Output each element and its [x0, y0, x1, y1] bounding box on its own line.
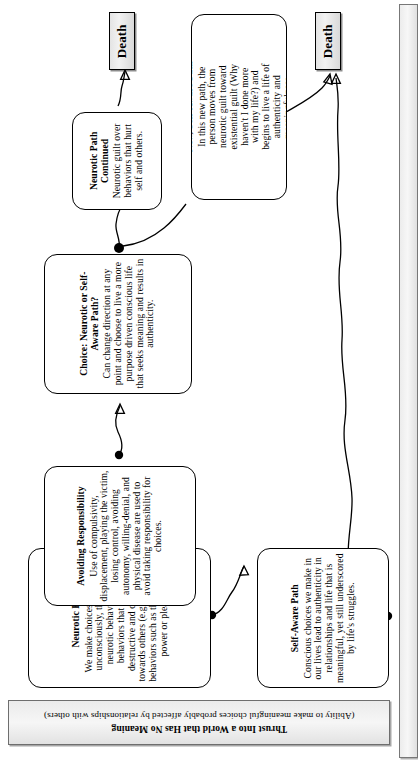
- wire-choice-to-new-selfaware: [123, 204, 186, 246]
- banner-inner: Thrust Into a World that Has No Meaning …: [44, 711, 355, 734]
- node-neurotic-path-continued-title: Neurotic Path Continued: [89, 117, 110, 205]
- banner-title: Thrust Into a World that Has No Meaning: [44, 723, 355, 734]
- arrowhead-neurotic-cont-death: [121, 70, 130, 79]
- node-choice-body: Can change direction at any point and ch…: [103, 259, 157, 389]
- wire-neurotic-cont-to-death: [118, 72, 125, 106]
- terminal-death-neurotic[interactable]: Death: [109, 12, 135, 70]
- node-avoiding-responsibility-body: Use of compulsivity, displacement, playi…: [89, 470, 164, 602]
- node-choice-title: Choice: Neurotic or Self-Aware Path?: [79, 259, 100, 389]
- node-new-self-aware-path-body: In this new path, the person moves from …: [197, 60, 287, 154]
- terminal-death-self-aware[interactable]: Death: [315, 12, 341, 70]
- arrowhead-selfaware-death: [332, 74, 341, 83]
- wire-avoiding-to-choice: [116, 406, 122, 455]
- node-choice-neurotic-or-self-aware[interactable]: Choice: Neurotic or Self-Aware Path? Can…: [44, 254, 192, 394]
- node-avoiding-responsibility[interactable]: Avoiding Responsibility Use of compulsiv…: [44, 466, 196, 606]
- node-new-self-aware-path[interactable]: New, Self-Aware Path In this new path, t…: [191, 14, 287, 200]
- banner-thrust-into-world: Thrust Into a World that Has No Meaning …: [8, 700, 390, 745]
- node-avoiding-responsibility-title: Avoiding Responsibility: [76, 470, 87, 602]
- node-self-aware-path[interactable]: Self-Aware Path Conscious choices we mak…: [257, 548, 389, 688]
- diagram-title-caption: From Birth Through Death: Ongoing Strugg…: [399, 4, 418, 758]
- wire-selfaware-to-death: [336, 78, 352, 576]
- arrowhead-avoiding-choice: [116, 404, 125, 413]
- node-neurotic-path-continued-body: Neurotic guilt over behaviors that hurt …: [113, 117, 145, 205]
- arrowhead-neurotic-to-avoiding: [240, 566, 249, 575]
- wire-new-selfaware-to-death: [286, 76, 330, 112]
- node-neurotic-path-continued[interactable]: Neurotic Path Continued Neurotic guilt o…: [72, 112, 162, 210]
- node-self-aware-path-title: Self-Aware Path: [290, 553, 301, 683]
- node-avoiding-responsibility-inner: Avoiding Responsibility Use of compulsiv…: [76, 470, 164, 602]
- node-neurotic-path-continued-inner: Neurotic Path Continued Neurotic guilt o…: [89, 117, 145, 205]
- junction-avoiding: [115, 451, 123, 459]
- node-self-aware-path-body: Conscious choices we make in our lives l…: [303, 553, 357, 683]
- node-self-aware-path-inner: Self-Aware Path Conscious choices we mak…: [290, 553, 356, 683]
- arrowhead-new-selfaware-death: [324, 74, 332, 84]
- terminal-death-self-aware-label: Death: [321, 24, 336, 58]
- junction-choice: [114, 243, 124, 253]
- node-choice-inner: Choice: Neurotic or Self-Aware Path? Can…: [79, 259, 156, 389]
- banner-subtitle: (Ability to make meaningful choices prob…: [44, 711, 355, 721]
- node-new-self-aware-path-inner: New, Self-Aware Path In this new path, t…: [191, 60, 287, 154]
- wire-neurotic-to-avoiding: [212, 566, 244, 615]
- node-new-self-aware-path-title: New, Self-Aware Path: [191, 60, 195, 154]
- terminal-death-neurotic-label: Death: [115, 24, 130, 58]
